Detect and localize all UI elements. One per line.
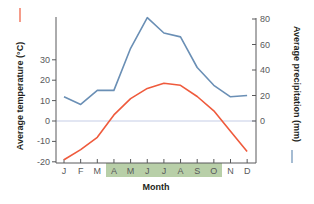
precipitation-line (64, 18, 247, 105)
right-tick-label: 40 (260, 65, 270, 75)
left-axis-title: Average temperature (°C) (15, 42, 25, 150)
left-tick-label: 20 (40, 75, 50, 85)
month-label: F (78, 166, 84, 176)
month-label: J (62, 166, 67, 176)
left-axis-ticks: -20-100102030 (37, 55, 56, 167)
right-axis-ticks: 020406080 (252, 14, 270, 126)
month-label: S (194, 166, 200, 176)
left-tick-label: 30 (40, 55, 50, 65)
month-label: M (127, 166, 135, 176)
x-axis-title: Month (143, 182, 170, 192)
right-axis-title: Average precipitation (mm) (292, 26, 302, 142)
month-label: D (244, 166, 251, 176)
right-tick-label: 60 (260, 40, 270, 50)
left-tick-label: 0 (45, 116, 50, 126)
month-label: J (145, 166, 150, 176)
month-label: O (210, 166, 217, 176)
left-tick-label: 10 (40, 96, 50, 106)
month-label: J (162, 166, 167, 176)
left-tick-label: -10 (37, 136, 50, 146)
month-label: A (111, 166, 117, 176)
climate-chart: -20-100102030 020406080 JFMAMJJASOND Mon… (0, 0, 314, 204)
left-tick-label: -20 (37, 157, 50, 167)
month-label: M (94, 166, 102, 176)
right-tick-label: 20 (260, 91, 270, 101)
right-tick-label: 0 (260, 116, 265, 126)
right-tick-label: 80 (260, 14, 270, 24)
month-label: N (227, 166, 234, 176)
month-label: A (178, 166, 184, 176)
